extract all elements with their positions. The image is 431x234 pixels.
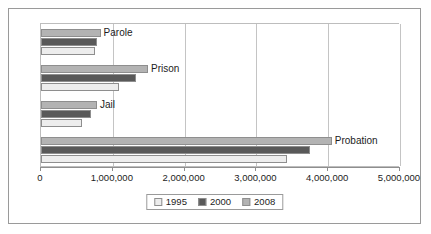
legend-swatch-2008 — [242, 198, 250, 206]
bar-row: Parole — [41, 29, 399, 37]
x-tick-label: 2,000,000 — [162, 173, 204, 183]
category-label-probation: Probation — [335, 136, 378, 146]
legend-item-2008: 2008 — [242, 197, 275, 207]
category-label-jail: Jail — [100, 100, 115, 110]
legend-label-1995: 1995 — [166, 197, 187, 207]
x-axis — [40, 167, 399, 168]
bar-row — [41, 74, 399, 82]
bar-row — [41, 110, 399, 118]
bar-probation-1995 — [41, 155, 287, 163]
bar-group: Jail — [41, 96, 399, 132]
gridline — [400, 24, 401, 166]
bar-parole-2000 — [41, 38, 97, 46]
bar-row — [41, 146, 399, 154]
bar-parole-2008 — [41, 29, 101, 37]
bar-prison-2008 — [41, 65, 148, 73]
x-tick-mark — [255, 167, 256, 171]
bar-group: Prison — [41, 60, 399, 96]
plot-area: ParolePrisonJailProbation — [40, 23, 399, 167]
x-tick-label: 1,000,000 — [91, 173, 133, 183]
bar-row: Probation — [41, 137, 399, 145]
x-tick-mark — [184, 167, 185, 171]
chart-legend: 199520002008 — [146, 194, 283, 210]
category-label-parole: Parole — [104, 28, 133, 38]
bar-row — [41, 83, 399, 91]
legend-label-2008: 2008 — [254, 197, 275, 207]
bar-row — [41, 38, 399, 46]
bar-row: Jail — [41, 101, 399, 109]
bar-probation-2008 — [41, 137, 332, 145]
bar-jail-2000 — [41, 110, 91, 118]
bar-jail-2008 — [41, 101, 97, 109]
bar-jail-1995 — [41, 119, 82, 127]
x-tick-label: 0 — [37, 173, 42, 183]
legend-item-1995: 1995 — [154, 197, 187, 207]
x-tick-label: 3,000,000 — [234, 173, 276, 183]
bar-probation-2000 — [41, 146, 310, 154]
x-tick-mark — [112, 167, 113, 171]
bar-row — [41, 155, 399, 163]
x-tick-mark — [327, 167, 328, 171]
bar-prison-2000 — [41, 74, 136, 82]
category-label-prison: Prison — [151, 64, 179, 74]
x-tick-mark — [40, 167, 41, 171]
bar-parole-1995 — [41, 47, 95, 55]
chart-frame: ParolePrisonJailProbation 199520002008 0… — [8, 8, 421, 224]
legend-swatch-1995 — [154, 198, 162, 206]
legend-label-2000: 2000 — [210, 197, 231, 207]
bar-group: Probation — [41, 132, 399, 168]
x-tick-label: 5,000,000 — [378, 173, 420, 183]
x-tick-mark — [399, 167, 400, 171]
bar-row: Prison — [41, 65, 399, 73]
x-tick-label: 4,000,000 — [306, 173, 348, 183]
legend-swatch-2000 — [198, 198, 206, 206]
legend-item-2000: 2000 — [198, 197, 231, 207]
bar-row — [41, 119, 399, 127]
bar-row — [41, 47, 399, 55]
bar-group: Parole — [41, 24, 399, 60]
bar-prison-1995 — [41, 83, 119, 91]
